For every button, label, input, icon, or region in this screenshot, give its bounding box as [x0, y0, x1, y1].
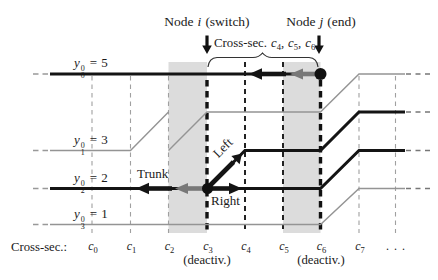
node-j-suffix: (end)	[327, 14, 355, 29]
tick-c5-sub: 5	[285, 245, 289, 255]
track-3-label: y01=3	[74, 133, 108, 156]
tick-c5: c5	[272, 240, 296, 253]
deactivation-band-c2-c3	[169, 62, 208, 233]
track-1-label: y03=1	[74, 207, 108, 230]
tick-c4-sub: 4	[247, 245, 251, 255]
deactivated-label-c3: (deactiv.)	[176, 253, 238, 267]
node-j-var: j	[320, 14, 324, 29]
track-5-label: y00=5	[74, 56, 108, 79]
node-i-label: Nodei(switch)	[147, 15, 267, 29]
axis-title: Cross-sec.:	[11, 240, 67, 254]
annotation-prefix: Cross-sec.	[214, 36, 267, 50]
node-i-down-arrow-icon	[202, 36, 212, 55]
track-2-sub: 2	[81, 187, 85, 194]
right-label: Right	[211, 194, 240, 208]
tick-c1: c1	[120, 240, 144, 253]
node-i-suffix: (switch)	[205, 14, 249, 29]
cross-sec-annotation: Cross-sec.c4,c5,c6	[214, 36, 315, 50]
tick-c1-sub: 1	[132, 245, 136, 255]
node-j-label: Nodej(end)	[261, 15, 381, 29]
node-i-var: i	[198, 14, 202, 29]
railway-track-deactivation-diagram: Nodei(switch) Nodej(end) Cross-sec.c4,c5…	[0, 0, 438, 280]
track-3-var: y	[74, 132, 80, 147]
annotation-sep-2: ,	[298, 36, 301, 50]
track-3-sub: 1	[81, 149, 85, 156]
deactivated-label-c6: (deactiv.)	[290, 253, 352, 267]
tick-c2-sub: 2	[170, 245, 174, 255]
node-j-prefix: Node	[286, 14, 315, 29]
track-5-value: 5	[101, 55, 108, 70]
track-continuation-left	[33, 74, 48, 225]
tick-c0-sub: 0	[94, 245, 98, 255]
deactivation-band-c5-c6	[283, 62, 321, 233]
track-1-eq: =	[90, 206, 97, 221]
annotation-sep-1: ,	[281, 36, 284, 50]
track-1-sub: 3	[81, 223, 85, 230]
tick-c7-sub: 7	[361, 245, 365, 255]
track-1-value: 1	[101, 206, 108, 221]
track-2-label: y02=2	[74, 171, 108, 194]
node-i-prefix: Node	[164, 14, 193, 29]
trunk-label: Trunk	[137, 167, 168, 181]
track-2-var: y	[74, 170, 80, 185]
track-2-eq: =	[90, 170, 97, 185]
node-j-down-arrow-icon	[314, 36, 324, 55]
tick-c4: c4	[234, 240, 258, 253]
track-3-value: 3	[101, 132, 108, 147]
track-2-value: 2	[101, 170, 108, 185]
track-y5-black-arrow	[249, 68, 286, 80]
cross-section-lines-black-thin	[245, 62, 283, 233]
secondary-track-y3-ramp	[50, 112, 169, 151]
tick-c7: c7	[348, 240, 372, 253]
track-1-var: y	[74, 206, 80, 221]
tick-c0: c0	[81, 240, 105, 253]
annotation-c6-sub: 6	[311, 42, 315, 52]
track-5-sub: 0	[81, 72, 85, 79]
tick-c3: c3	[196, 240, 220, 253]
cross-section-gridlines-gray	[92, 76, 396, 233]
node-j-dot	[315, 68, 327, 80]
tick-c6: c6	[310, 240, 334, 253]
track-5-eq: =	[90, 55, 97, 70]
track-5-var: y	[74, 55, 80, 70]
axis-ellipsis: . . .	[386, 239, 406, 253]
trunk-direction-arrow	[136, 183, 172, 195]
track-3-eq: =	[90, 132, 97, 147]
tick-c2: c2	[158, 240, 182, 253]
track-continuation-right	[406, 74, 433, 189]
